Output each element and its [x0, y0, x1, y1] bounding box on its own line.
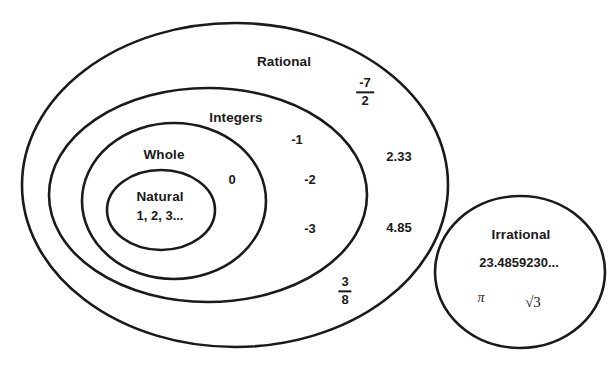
fraction-denominator: 8 [338, 293, 351, 307]
fraction-numerator: 3 [338, 275, 351, 289]
integers-set-label: Integers [209, 111, 262, 126]
rational-member-fraction-negative-seven-halves: -7 2 [356, 76, 374, 107]
irrational-set-label: Irrational [492, 228, 551, 243]
rational-member-4-85: 4.85 [386, 221, 411, 235]
irrational-member-sqrt-three: √3 [525, 294, 541, 311]
rational-member-fraction-three-eighths: 3 8 [338, 275, 351, 306]
irrational-member-decimal: 23.4859230... [479, 256, 559, 270]
integer-member-negative-three: -3 [304, 222, 316, 236]
fraction-numerator: -7 [356, 76, 374, 90]
rational-set-label: Rational [257, 55, 311, 70]
integer-member-negative-two: -2 [304, 173, 316, 187]
natural-set-label: Natural [136, 190, 183, 205]
whole-member-zero: 0 [228, 173, 235, 187]
irrational-member-pi: π [477, 290, 484, 305]
fraction-denominator: 2 [356, 94, 374, 108]
rational-member-2-33: 2.33 [386, 150, 411, 164]
integer-member-negative-one: -1 [291, 133, 303, 147]
natural-members-text: 1, 2, 3... [137, 209, 184, 223]
whole-set-label: Whole [144, 148, 185, 163]
number-sets-venn-diagram: Rational Integers Whole Natural Irration… [0, 0, 612, 369]
venn-labels-layer: Rational Integers Whole Natural Irration… [0, 0, 612, 369]
